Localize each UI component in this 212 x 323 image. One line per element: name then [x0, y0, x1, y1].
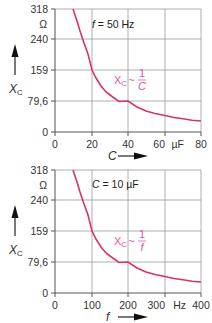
y-tick-159: 159 [30, 225, 48, 237]
x-axis-label: f [106, 310, 111, 323]
parameter-label: f = 50 Hz [92, 18, 134, 30]
x-tick-300: 300 [147, 299, 165, 311]
formula-annotation: XC~ 1 f [114, 228, 146, 253]
y-axis-arrow-icon [12, 205, 19, 236]
x-unit-uf: µF [172, 138, 184, 150]
svg-text:1: 1 [139, 228, 145, 240]
x-axis-arrow-icon [118, 153, 148, 160]
y-tick-240: 240 [30, 33, 48, 45]
y-axis-label: XC [8, 243, 23, 258]
y-tick-0: 0 [42, 287, 48, 299]
y-tick-79-6: 79,6 [28, 95, 49, 107]
y-axis-arrow-icon [12, 44, 19, 75]
x-tick-60: 60 [153, 138, 165, 150]
chart-xc-vs-capacitance: 318 Ω 240 159 79,6 0 0 20 40 60 µF 80 XC… [0, 0, 212, 162]
svg-text:XC~: XC~ [114, 74, 135, 88]
x-tick-200: 200 [119, 299, 137, 311]
x-tick-100: 100 [83, 299, 101, 311]
chart-1-svg: 318 Ω 240 159 79,6 0 0 20 40 60 µF 80 XC… [0, 0, 212, 162]
x-unit-hz: Hz [173, 299, 186, 311]
x-axis-arrow-icon [118, 314, 148, 321]
x-tick-0: 0 [52, 138, 58, 150]
y-unit-ohm: Ω [39, 18, 47, 30]
chart-2-svg: 318 Ω 240 159 79,6 0 0 100 200 300 Hz 40… [0, 161, 212, 323]
x-tick-40: 40 [122, 138, 134, 150]
svg-text:1: 1 [139, 67, 145, 79]
x-tick-0: 0 [52, 299, 58, 311]
svg-text:f: f [140, 241, 144, 253]
chart-xc-vs-frequency: 318 Ω 240 159 79,6 0 0 100 200 300 Hz 40… [0, 161, 212, 323]
y-tick-240: 240 [30, 194, 48, 206]
y-axis-label: XC [8, 82, 23, 97]
x-tick-20: 20 [86, 138, 98, 150]
y-tick-318: 318 [30, 164, 48, 176]
parameter-label: C = 10 µF [92, 178, 139, 190]
y-unit-ohm: Ω [39, 179, 47, 191]
x-tick-400: 400 [192, 299, 210, 311]
formula-annotation: XC~ 1 C [114, 67, 146, 92]
y-tick-0: 0 [42, 126, 48, 138]
y-tick-79-6: 79,6 [28, 256, 49, 268]
svg-text:XC~: XC~ [114, 235, 135, 249]
y-tick-318: 318 [30, 3, 48, 15]
y-tick-159: 159 [30, 64, 48, 76]
x-tick-80: 80 [195, 138, 207, 150]
svg-text:C: C [138, 80, 146, 92]
